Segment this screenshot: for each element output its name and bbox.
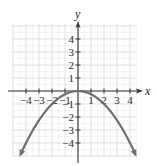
y-axis-label: y — [74, 7, 81, 21]
y-tick-label: 1 — [69, 72, 75, 84]
y-tick-label: −1 — [62, 98, 74, 110]
y-tick-label: 2 — [69, 59, 75, 71]
y-tick-label: −2 — [62, 111, 74, 123]
x-tick-label: −4 — [20, 94, 32, 106]
x-tick-label: −3 — [33, 94, 45, 106]
x-tick-label: 3 — [114, 94, 120, 106]
x-tick-label: 4 — [127, 94, 133, 106]
y-tick-label: 4 — [69, 33, 75, 45]
x-axis-label: x — [144, 84, 151, 98]
y-tick-label: 3 — [69, 46, 75, 58]
y-tick-label: −4 — [62, 137, 74, 149]
parabola-graph: −4−3−2−112344321−1−2−3−4 x y — [0, 0, 157, 166]
y-tick-label: −3 — [62, 124, 74, 136]
